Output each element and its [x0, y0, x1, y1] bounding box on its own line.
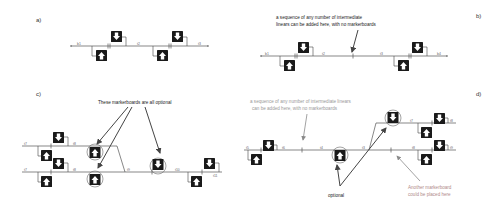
- track-label: t8: [73, 142, 76, 146]
- track-label: t8: [412, 146, 415, 150]
- railway-markerboard-diagram: a) b1 t2 t3 b) a sequence of any number …: [0, 0, 488, 208]
- track-label: t2: [322, 52, 325, 56]
- track-label: b4: [437, 52, 441, 56]
- track-label: t8: [450, 119, 453, 123]
- panel-c: c) These markerboards are all optional t…: [22, 91, 222, 187]
- markerboard-down-arrow-icon: [434, 140, 445, 151]
- track-label: t9: [450, 146, 453, 150]
- annotation-text: a sequence of any number of intermediate: [276, 15, 363, 20]
- track-label: t3: [380, 52, 383, 56]
- panel-d-label: d): [476, 91, 481, 97]
- annotation-text: a sequence of any number of intermediate…: [250, 99, 352, 104]
- markerboard-up-arrow-icon: [41, 150, 52, 161]
- markerboard-down-arrow-icon: [388, 112, 399, 123]
- track-label: t7: [410, 119, 413, 123]
- panel-a: a) b1 t2 t3: [36, 17, 209, 61]
- track-label: t6: [282, 146, 285, 150]
- annotation-text: can be added here, with no markerboards: [252, 106, 338, 111]
- markerboard-down-arrow-icon: [53, 158, 64, 169]
- annotation-text: These markerboards are all optional: [98, 100, 172, 105]
- markerboard-up-arrow-icon: [251, 154, 262, 165]
- track-label: t10: [175, 168, 180, 172]
- markerboard-down-arrow-icon: [53, 132, 64, 143]
- panel-d: d) a sequence of any number of intermedi…: [244, 91, 481, 198]
- track-label: b1: [77, 42, 81, 46]
- track-label: t7: [24, 168, 27, 172]
- markerboard-down-arrow-icon: [263, 140, 274, 151]
- markerboard-up-arrow-icon: [421, 154, 432, 165]
- markerboard-down-arrow-icon: [172, 31, 183, 42]
- track-label: t11: [213, 174, 218, 178]
- track-label: t3: [198, 42, 201, 46]
- markerboard-up-arrow-icon: [284, 60, 295, 71]
- markerboard-up-arrow-icon: [96, 50, 107, 61]
- markerboard-down-arrow-icon: [298, 42, 309, 53]
- annotation-text: could be placed here: [408, 192, 451, 197]
- markerboard-up-arrow-icon: [335, 150, 346, 161]
- track-label: t9: [127, 168, 130, 172]
- annotation-text: Another markerboard: [408, 185, 452, 190]
- markerboard-down-arrow-icon: [434, 113, 445, 124]
- markerboard-up-arrow-icon: [90, 174, 101, 185]
- annotation-text: linears can be added here, with no marke…: [276, 22, 377, 27]
- track-label: t8: [73, 168, 76, 172]
- track-label: t3: [362, 146, 365, 150]
- markerboard-up-arrow-icon: [157, 50, 168, 61]
- track-label: t2: [137, 42, 140, 46]
- track-label: t5: [246, 146, 249, 150]
- markerboard-up-arrow-icon: [41, 176, 52, 187]
- track-label: t7: [24, 142, 27, 146]
- markerboard-down-arrow-icon: [412, 42, 423, 53]
- track-label: t4: [320, 146, 323, 150]
- markerboard-up-arrow-icon: [191, 176, 202, 187]
- panel-b-label: b): [476, 13, 481, 19]
- markerboard-down-arrow-icon: [153, 159, 164, 170]
- panel-a-label: a): [36, 17, 41, 23]
- track-label: b1: [265, 52, 269, 56]
- markerboard-up-arrow-icon: [421, 127, 432, 138]
- markerboard-down-arrow-icon: [204, 158, 215, 169]
- panel-b: b) a sequence of any number of intermedi…: [260, 13, 481, 71]
- markerboard-down-arrow-icon: [111, 31, 122, 42]
- annotation-text: optional: [328, 193, 344, 198]
- markerboard-up-arrow-icon: [90, 147, 101, 158]
- markerboard-up-arrow-icon: [398, 60, 409, 71]
- panel-c-label: c): [36, 91, 41, 97]
